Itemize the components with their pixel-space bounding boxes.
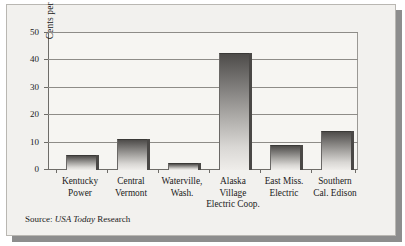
- x-tick-mark-5: [311, 169, 312, 173]
- x-label-line3: Electric Coop.: [193, 199, 273, 211]
- y-tick-mark-10: [44, 142, 48, 143]
- y-tick-label-30: 30: [17, 82, 39, 92]
- y-tick-label-40: 40: [17, 54, 39, 64]
- x-label-line2: Cal. Edison: [295, 188, 375, 200]
- bar-east-miss-electric[interactable]: [270, 145, 300, 170]
- x-label-line1: Central: [117, 176, 144, 186]
- y-tick-mark-20: [44, 114, 48, 115]
- y-tick-mark-30: [44, 87, 48, 88]
- figure-container: Cents per Kilowatt-hour 50 40 30 20 10 0: [0, 0, 405, 246]
- gridline-30: [48, 87, 358, 88]
- y-tick-label-20: 20: [17, 109, 39, 119]
- bar-alaska-village-electric-coop[interactable]: [219, 53, 249, 170]
- bar-southern-cal-edison[interactable]: [321, 131, 351, 170]
- bar-central-vermont[interactable]: [117, 139, 147, 170]
- x-tick-mark-2: [158, 169, 159, 173]
- y-tick-label-50: 50: [17, 27, 39, 37]
- x-tick-mark-3: [209, 169, 210, 173]
- x-label-southern-cal-edison: Southern Cal. Edison: [295, 176, 375, 199]
- bar-kentucky-power[interactable]: [66, 155, 96, 170]
- x-tick-mark-1: [107, 169, 108, 173]
- y-tick-mark-50: [44, 32, 48, 33]
- gridline-20: [48, 114, 358, 115]
- y-tick-label-10: 10: [17, 137, 39, 147]
- x-tick-mark-0: [56, 169, 57, 173]
- bar-chart: Cents per Kilowatt-hour 50 40 30 20 10 0: [48, 32, 358, 170]
- bar-waterville-wash[interactable]: [168, 163, 198, 170]
- source-suffix: Research: [97, 214, 130, 224]
- y-tick-mark-40: [44, 59, 48, 60]
- source-publication: USA Today: [55, 214, 95, 224]
- y-axis-title: Cents per Kilowatt-hour: [45, 0, 55, 62]
- plot-area: [48, 32, 358, 170]
- source-note: Source: USA Today Research: [25, 214, 130, 224]
- x-label-line1: Southern: [318, 176, 352, 186]
- x-tick-mark-6: [355, 169, 356, 173]
- gridline-40: [48, 59, 358, 60]
- x-label-line1: Alaska: [220, 176, 246, 186]
- gridline-50: [48, 32, 358, 33]
- x-tick-mark-4: [260, 169, 261, 173]
- figure-panel: Cents per Kilowatt-hour 50 40 30 20 10 0: [6, 4, 396, 236]
- y-tick-mark-0: [44, 169, 48, 170]
- gridline-10: [48, 142, 358, 143]
- source-prefix: Source:: [25, 214, 53, 224]
- y-tick-label-0: 0: [17, 164, 39, 174]
